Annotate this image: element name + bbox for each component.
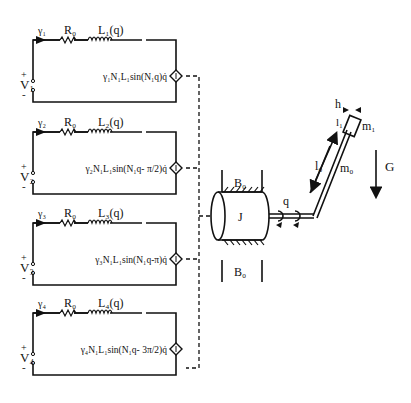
current-label: γ₄ bbox=[37, 298, 46, 309]
gravity-label: G bbox=[385, 159, 394, 174]
angle-label: q bbox=[283, 194, 289, 208]
inductor-icon bbox=[88, 310, 112, 313]
inductor-label: L₄(q) bbox=[98, 296, 124, 310]
resistor-label: R₀ bbox=[64, 206, 76, 220]
resistor-icon bbox=[60, 37, 76, 43]
resistor-label: R₀ bbox=[64, 296, 76, 310]
current-label: γ₃ bbox=[37, 208, 46, 219]
rotor-mechanism: J B₀ B₀ q l₀ m₀ l₁ h m₁ G bbox=[211, 97, 394, 282]
resistor-icon bbox=[60, 220, 76, 226]
source-expression: γ₃N₁L₁sin(N₁q-π)q̇ bbox=[94, 255, 167, 266]
circuit-stack: γ₁R₀L₁(q)+-V₁γ₁N₁L₁sin(N₁q)q̇γ₂R₀L₂(q)+-… bbox=[20, 23, 182, 375]
voltage-label: V₁ bbox=[20, 77, 34, 92]
bearing-top-label: B₀ bbox=[234, 176, 246, 190]
link-length-label: l₀ bbox=[315, 159, 323, 173]
circuit-wire bbox=[33, 132, 176, 194]
inductor-icon bbox=[88, 37, 112, 40]
resistor-icon bbox=[60, 129, 76, 135]
resistor-icon bbox=[60, 310, 76, 316]
source-expression: γ₁N₁L₁sin(N₁q)q̇ bbox=[102, 72, 167, 83]
circuit-wire bbox=[33, 223, 176, 285]
coupling-bus bbox=[186, 76, 211, 368]
tip-length-label: l₁ bbox=[336, 116, 343, 128]
diagram-canvas: γ₁R₀L₁(q)+-V₁γ₁N₁L₁sin(N₁q)q̇γ₂R₀L₂(q)+-… bbox=[0, 0, 411, 403]
voltage-label: V₂ bbox=[20, 169, 34, 184]
tip-offset-label: h bbox=[335, 97, 341, 111]
voltage-label: V₄ bbox=[20, 350, 34, 365]
inductor-icon bbox=[88, 129, 112, 132]
resistor-label: R₀ bbox=[64, 115, 76, 129]
current-label: γ₂ bbox=[37, 117, 46, 128]
voltage-label: V₃ bbox=[20, 260, 34, 275]
resistor-label: R₀ bbox=[64, 23, 76, 37]
source-expression: γ₂N₁L₁sin(N₁q- π/2)q̇ bbox=[84, 164, 167, 175]
inductor-label: L₃(q) bbox=[98, 206, 124, 220]
inductor-label: L₂(q) bbox=[98, 115, 124, 129]
link-mass-label: m₀ bbox=[340, 161, 354, 175]
tip-mass-label: m₁ bbox=[362, 119, 376, 133]
inertia-label: J bbox=[238, 210, 243, 224]
inductor-icon bbox=[88, 220, 112, 223]
bearing-bottom-label: B₀ bbox=[234, 265, 246, 279]
inductor-label: L₁(q) bbox=[98, 23, 124, 37]
source-expression: γ₄N₁L₁sin(N₁q- 3π/2)q̇ bbox=[80, 345, 168, 356]
current-label: γ₁ bbox=[37, 25, 46, 36]
circuit-wire bbox=[33, 40, 176, 102]
circuit-wire bbox=[33, 313, 176, 375]
